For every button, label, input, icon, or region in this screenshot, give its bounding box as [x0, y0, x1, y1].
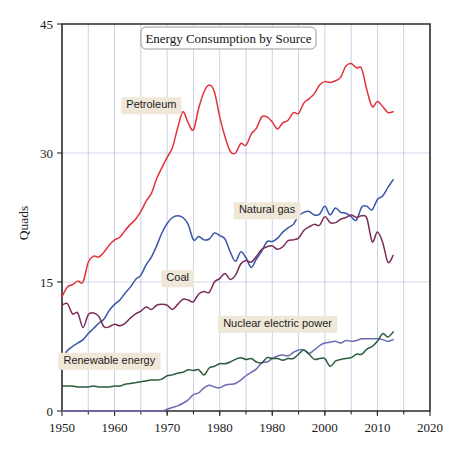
series-label-natural-gas: Natural gas: [234, 202, 301, 219]
series-line-coal: [62, 215, 393, 328]
series-label-text: Natural gas: [239, 203, 296, 215]
series-label-coal: Coal: [161, 270, 194, 287]
series-label-text: Coal: [166, 271, 189, 283]
chart-title-label: Energy Consumption by Source: [145, 31, 311, 46]
series-label-renewable-energy: Renewable energy: [58, 353, 160, 370]
chart-container: 19501960197019801980200020102020 0153045…: [0, 0, 457, 453]
y-axis-tick-labels: 0153045: [40, 17, 53, 419]
series-label-petroleum: Petroleum: [121, 97, 181, 114]
y-tick-label: 30: [40, 146, 53, 161]
x-tick-label: 1950: [49, 420, 75, 435]
y-axis-title: Quads: [16, 206, 31, 241]
x-tick-label: 1970: [154, 420, 180, 435]
x-tick-label: 2020: [417, 420, 443, 435]
series-labels-group: PetroleumNatural gasCoalNuclear electric…: [58, 97, 337, 369]
y-tick-label: 15: [40, 275, 53, 290]
x-tick-label: 1960: [102, 420, 128, 435]
x-tick-label: 1980: [207, 420, 233, 435]
series-line-petroleum: [62, 63, 393, 296]
y-tick-label: 0: [47, 404, 54, 419]
series-label-text: Nuclear electric power: [223, 317, 332, 329]
y-tick-label: 45: [40, 17, 53, 32]
series-label-text: Petroleum: [126, 98, 176, 110]
series-line-nuclear-electric-power: [62, 339, 393, 411]
series-label-text: Renewable energy: [63, 354, 155, 366]
x-axis-tick-labels: 19501960197019801980200020102020: [49, 420, 443, 435]
series-label-nuclear-electric-power: Nuclear electric power: [218, 316, 337, 333]
chart-title: Energy Consumption by Source: [141, 27, 316, 49]
x-tick-label: 2000: [312, 420, 338, 435]
energy-consumption-line-chart: 19501960197019801980200020102020 0153045…: [0, 0, 457, 453]
x-tick-label: 2010: [364, 420, 390, 435]
x-tick-label: 1980: [259, 420, 285, 435]
